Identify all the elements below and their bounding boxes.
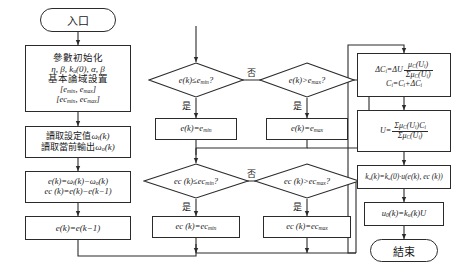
decision-ecmin-label: ec (k)≤ecmin?	[143, 176, 249, 186]
node-shift: e(k)=e(k−1)	[25, 216, 131, 240]
node-init: 參數初始化 η, β, ku(0), α, β 基本論域設置 [emin, em…	[25, 45, 131, 112]
node-delta-c: ΔCi=ΔU μC(Ui) ΣμC(Ui) Ci=Ci+ΔCi	[357, 53, 451, 97]
output-label: u0(k)=ku(k)U	[382, 209, 426, 219]
init-line-5: [ecmin, ecmax]	[56, 95, 100, 105]
read-line-1: 讀取設定值ωi(k)	[46, 131, 109, 142]
node-set-emax: e(k)=emax	[266, 118, 348, 140]
node-entry: 入口	[40, 8, 116, 32]
decision-emin-label: e(k)≤emin?	[148, 75, 244, 85]
read-line-2: 讀取當前輸出ωo(k)	[41, 142, 114, 153]
node-end: 結束	[370, 239, 438, 262]
delta-c-line-1: ΔCi=ΔU μC(Ui) ΣμC(Ui)	[375, 61, 432, 79]
defuzzify-line-1: U= ΣμC(Ui)Ci ΣμC(Ui)	[380, 122, 428, 140]
edge-label-yes-ecmax: 是	[293, 200, 302, 213]
edge-label-yes-emin: 是	[182, 99, 191, 112]
node-defuzzify: U= ΣμC(Ui)Ci ΣμC(Ui)	[357, 110, 451, 152]
delta-c-line-2: Ci=Ci+ΔCi	[386, 80, 422, 89]
node-set-ecmax: ec (k)=ecmax	[263, 216, 351, 238]
gain-update-label: ku(k)=ku(0)·u(e(k), ec (k))	[365, 173, 443, 182]
node-output: u0(k)=ku(k)U	[364, 202, 444, 226]
set-ecmax-label: ec (k)=ecmax	[286, 222, 328, 232]
node-error-calc: e(k)=ωi(k)−ωo(k) ec (k)=e(k)−e(k−1)	[25, 171, 131, 203]
node-decision-ecmin: ec (k)≤ecmin?	[143, 163, 249, 199]
node-set-ecmin: ec (k)=ecmin	[152, 216, 240, 238]
shift-line-1: e(k)=e(k−1)	[56, 223, 101, 233]
decision-emax-label: e(k)>emax?	[259, 75, 355, 85]
set-ecmin-label: ec (k)=ecmin	[176, 222, 217, 232]
edge-label-no-1: 否	[247, 66, 256, 79]
node-decision-emax: e(k)>emax?	[259, 62, 355, 98]
end-label: 結束	[393, 243, 415, 259]
entry-label: 入口	[67, 12, 89, 28]
node-decision-emin: e(k)≤emin?	[148, 62, 244, 98]
set-emin-label: e(k)=emin	[180, 124, 211, 134]
decision-ecmax-label: ec (k)>ecmax?	[254, 176, 360, 186]
edge-label-yes-ecmin: 是	[182, 200, 191, 213]
set-emax-label: e(k)=emax	[291, 124, 323, 134]
init-line-1: 參數初始化	[53, 53, 103, 64]
node-read: 讀取設定值ωi(k) 讀取當前輸出ωo(k)	[25, 126, 131, 158]
node-set-emin: e(k)=emin	[155, 118, 237, 140]
edge-label-yes-emax: 是	[293, 99, 302, 112]
error-line-2: ec (k)=e(k)−e(k−1)	[45, 187, 112, 197]
node-decision-ecmax: ec (k)>ecmax?	[254, 163, 360, 199]
node-gain-update: ku(k)=ku(0)·u(e(k), ec (k))	[357, 165, 451, 189]
